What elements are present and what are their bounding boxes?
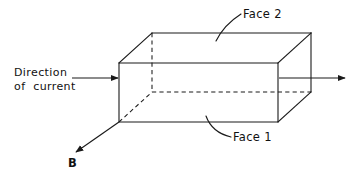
physics-diagram-canvas: Direction of current Face 2 Face 1 B	[0, 0, 361, 172]
face-1-label: Face 1	[233, 130, 272, 144]
hidden-edge-bottom-left-diagonal	[119, 92, 152, 122]
block-diagram-svg: Direction of current Face 2 Face 1 B	[0, 0, 361, 172]
current-direction-label-line2: of current	[14, 80, 76, 93]
magnetic-field-arrow	[76, 122, 119, 152]
top-right-diagonal-edge	[278, 33, 311, 63]
leader-line-face1	[206, 116, 231, 137]
magnetic-field-vector-group	[76, 122, 119, 152]
magnetic-field-label: B	[68, 156, 77, 170]
leader-line-face2	[216, 14, 241, 41]
current-direction-label-line1: Direction	[14, 66, 67, 79]
face-2-label: Face 2	[243, 7, 282, 21]
top-left-diagonal-edge	[119, 33, 152, 63]
right-bottom-diagonal-edge	[278, 92, 311, 122]
